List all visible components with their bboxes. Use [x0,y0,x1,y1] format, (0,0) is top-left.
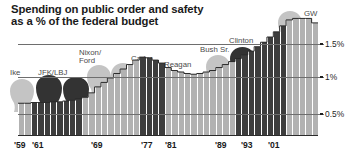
xtick-label-69: '69 [91,140,103,150]
bar [312,23,319,136]
gridline-0-5 [18,114,324,115]
ytick-dot-1-0 [320,76,323,79]
xtick-label-81: '81 [165,140,177,150]
ytick-label-1-5: 1.5% [325,39,344,49]
xtick-label-77: '77 [141,140,153,150]
xtick-label-61: '61 [32,140,44,150]
plot-area [18,8,318,136]
xtick-label-59: '59 [14,140,26,150]
axis-baseline [18,135,318,136]
bar-series [18,8,318,136]
gridline-1-5 [18,44,324,45]
ytick-dot-0-5 [320,113,323,116]
chart-figure: Spending on public order and safety as a… [0,0,349,162]
xtick-label-89: '89 [215,140,227,150]
ytick-label-0-5: 0.5% [325,109,344,119]
ytick-dot-1-5 [320,43,323,46]
xtick-label-93: '93 [241,140,253,150]
ytick-label-1-0: 1% [325,72,337,82]
xtick-label-01: '01 [268,140,280,150]
gridline-1-0 [18,77,324,78]
